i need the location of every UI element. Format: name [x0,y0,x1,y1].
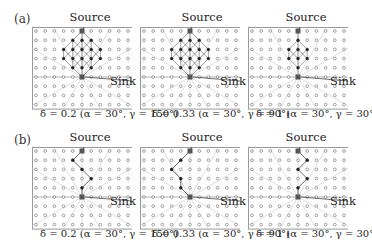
panel-caption: δ = 1 (α = 30°, γ = 30°) [256,228,356,239]
panel-a1: Source Sink δ = 0.2 (α = 30°, γ = 150°) [32,8,132,118]
sink-label: Sink [220,74,246,88]
sensor-grid-diagram [248,147,348,231]
source-label: Source [40,10,140,24]
row-label-a: (a) [14,12,31,26]
row-label-b: (b) [14,133,31,147]
source-label: Source [40,130,140,144]
panel-caption: δ = 0.33 (α = 30°, γ = 90°) [152,228,252,239]
sink-label: Sink [330,194,356,208]
panel-a3: Source Sink δ = 1 (α = 30°, γ = 30°) [248,8,348,118]
source-label: Source [256,10,356,24]
sink-label: Sink [110,194,136,208]
sensor-grid-diagram [248,27,348,111]
sensor-grid-diagram [140,147,240,231]
sensor-grid-diagram [140,27,240,111]
sensor-grid-diagram [32,147,132,231]
panel-a2: Source Sink δ = 0.33 (α = 30°, γ = 90°) [140,8,240,118]
panel-b2: Source Sink δ = 0.33 (α = 30°, γ = 90°) [140,128,240,238]
sensor-grid-diagram [32,27,132,111]
panel-caption: δ = 0.2 (α = 30°, γ = 150°) [40,228,140,239]
panel-caption: δ = 0.33 (α = 30°, γ = 90°) [152,108,252,119]
source-label: Source [256,130,356,144]
sink-label: Sink [330,74,356,88]
panel-caption: δ = 1 (α = 30°, γ = 30°) [256,108,356,119]
panel-caption: δ = 0.2 (α = 30°, γ = 150°) [40,108,140,119]
source-label: Source [152,10,252,24]
source-label: Source [152,130,252,144]
sink-label: Sink [110,74,136,88]
sink-label: Sink [220,194,246,208]
panel-b3: Source Sink δ = 1 (α = 30°, γ = 30°) [248,128,348,238]
panel-b1: Source Sink δ = 0.2 (α = 30°, γ = 150°) [32,128,132,238]
